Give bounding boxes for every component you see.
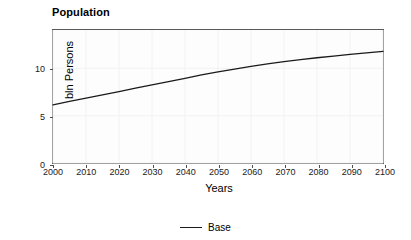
- x-tick-mark: [285, 165, 286, 168]
- x-tick-label: 2100: [365, 167, 405, 177]
- legend-line-icon: [180, 227, 202, 228]
- x-tick-mark: [252, 165, 253, 168]
- series-base-line: [53, 30, 383, 163]
- legend-label: Base: [208, 222, 231, 233]
- y-tick-label: 10: [5, 64, 45, 74]
- x-tick-mark: [86, 165, 87, 168]
- plot-area: bln Persons Years 0510 20002010202020302…: [52, 29, 384, 164]
- x-tick-mark: [186, 165, 187, 168]
- chart-legend: Base: [0, 222, 411, 233]
- x-tick-mark: [119, 165, 120, 168]
- x-tick-mark: [385, 165, 386, 168]
- chart-canvas: Population bln Persons Years 0510 200020…: [0, 0, 411, 240]
- legend-item[interactable]: Base: [180, 222, 231, 233]
- x-tick-mark: [219, 165, 220, 168]
- x-tick-mark: [53, 165, 54, 168]
- y-axis-label: bln Persons: [63, 10, 75, 130]
- y-tick-mark: [50, 69, 53, 70]
- y-tick-mark: [50, 117, 53, 118]
- x-tick-mark: [319, 165, 320, 168]
- x-tick-mark: [352, 165, 353, 168]
- y-tick-label: 5: [5, 112, 45, 122]
- page-title: Population: [52, 6, 110, 18]
- x-tick-mark: [153, 165, 154, 168]
- x-axis-label: Years: [53, 182, 385, 194]
